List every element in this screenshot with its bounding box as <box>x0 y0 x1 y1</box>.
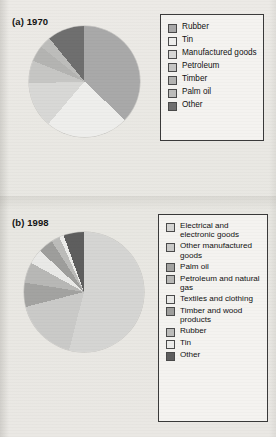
legend-1970-swatch-icon <box>168 24 177 33</box>
legend-1998-item: Palm oil <box>166 262 262 273</box>
legend-1998-swatch-icon <box>166 328 175 337</box>
legend-1970-label: Manufactured goods <box>182 48 257 58</box>
legend-1998-swatch-icon <box>166 352 175 361</box>
legend-1998: Electrical and electronic goodsOther man… <box>158 214 268 422</box>
legend-1998-swatch-icon <box>166 263 175 272</box>
legend-1998-label: Textiles and clothing <box>180 294 253 303</box>
legend-1970-label: Tin <box>182 35 193 45</box>
legend-1998-item: Timber and wood products <box>166 306 262 325</box>
legend-1970-swatch-icon <box>168 76 177 85</box>
pie-chart-1970 <box>29 26 140 172</box>
legend-1998-item: Textiles and clothing <box>166 294 262 305</box>
legend-1998-label: Other manufactured goods <box>180 241 262 260</box>
legend-1998-label: Tin <box>180 338 191 347</box>
pie-slices-1998 <box>24 232 144 352</box>
legend-1970-swatch-icon <box>168 50 177 59</box>
legend-1998-item: Tin <box>166 338 262 349</box>
legend-1970-label: Timber <box>182 74 207 84</box>
legend-1970-item: Petroleum <box>168 61 257 72</box>
legend-1998-item: Other manufactured goods <box>166 241 262 260</box>
figure-page: (a) 1970 RubberTinManufactured goodsPetr… <box>0 0 276 437</box>
legend-1970-item: Other <box>168 100 257 111</box>
panel-title-b: (b) 1998 <box>12 217 49 228</box>
legend-1998-label: Petroleum and natural gas <box>180 274 262 293</box>
legend-1998-item: Other <box>166 350 262 361</box>
legend-1970-label: Palm oil <box>182 87 211 97</box>
legend-1970-item: Tin <box>168 35 257 46</box>
legend-1998-item: Petroleum and natural gas <box>166 274 262 293</box>
legend-1998-swatch-icon <box>166 295 175 304</box>
legend-1998-swatch-icon <box>166 223 175 232</box>
legend-1970-item: Palm oil <box>168 87 257 98</box>
legend-1970-item: Manufactured goods <box>168 48 257 59</box>
legend-1970-swatch-icon <box>168 102 177 111</box>
legend-1998-label: Electrical and electronic goods <box>180 221 262 240</box>
legend-1970-label: Rubber <box>182 22 209 32</box>
legend-1970-item: Timber <box>168 74 257 85</box>
legend-1970-swatch-icon <box>168 37 177 46</box>
pie-slices-1970 <box>29 26 140 137</box>
legend-1970-label: Petroleum <box>182 61 219 71</box>
legend-1998-label: Other <box>180 350 200 359</box>
legend-1970-item: Rubber <box>168 22 257 33</box>
legend-1998-swatch-icon <box>166 340 175 349</box>
legend-1998-item: Rubber <box>166 326 262 337</box>
legend-1998-label: Rubber <box>180 326 207 335</box>
chart-panel-1970: (a) 1970 RubberTinManufactured goodsPetr… <box>0 0 276 205</box>
legend-1998-swatch-icon <box>166 307 175 316</box>
legend-1970-swatch-icon <box>168 63 177 72</box>
legend-1970: RubberTinManufactured goodsPetroleumTimb… <box>160 14 264 141</box>
legend-1970-swatch-icon <box>168 89 177 98</box>
legend-1970-label: Other <box>182 100 202 110</box>
pie-chart-1998 <box>24 232 144 382</box>
legend-1998-swatch-icon <box>166 243 175 252</box>
legend-1998-swatch-icon <box>166 275 175 284</box>
legend-1998-item: Electrical and electronic goods <box>166 221 262 240</box>
chart-panel-1998: (b) 1998 Electrical and electronic goods… <box>0 205 276 437</box>
legend-1998-label: Palm oil <box>180 262 209 271</box>
legend-1998-label: Timber and wood products <box>180 306 262 325</box>
